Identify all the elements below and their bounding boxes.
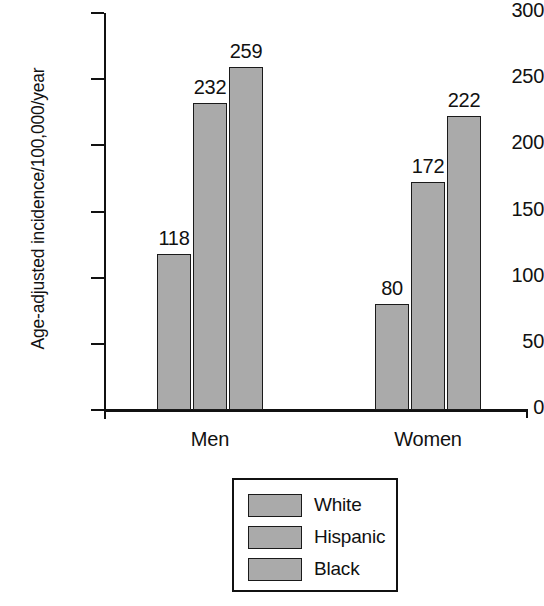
bar-value-label: 259	[218, 40, 274, 63]
y-axis-tick-label: 250	[458, 65, 544, 88]
legend-label: White	[314, 494, 362, 516]
y-axis-tick	[91, 12, 104, 14]
bar-men-hispanic	[193, 103, 227, 410]
legend-swatch-hispanic	[248, 526, 302, 549]
bar-men-black	[229, 67, 263, 410]
bar-women-black	[447, 116, 481, 410]
y-axis-tick	[91, 211, 104, 213]
legend-item-hispanic[interactable]: Hispanic	[248, 524, 385, 550]
bar-women-white	[375, 304, 409, 410]
legend-item-black[interactable]: Black	[248, 556, 359, 582]
bar-men-white	[157, 254, 191, 410]
legend-label: Hispanic	[314, 526, 385, 548]
legend-swatch-white	[248, 494, 302, 517]
y-axis-tick	[91, 144, 104, 146]
legend-swatch-black	[248, 558, 302, 581]
y-axis-line	[104, 13, 106, 411]
y-axis-base-tick	[104, 409, 106, 419]
legend: WhiteHispanicBlack	[232, 478, 398, 592]
legend-item-white[interactable]: White	[248, 492, 362, 518]
legend-label: Black	[314, 558, 359, 580]
y-axis-tick	[91, 409, 104, 411]
bar-value-label: 222	[436, 89, 492, 112]
x-axis-label-women: Women	[368, 428, 488, 451]
bar-chart: Age-adjusted incidence/100,000/year 3002…	[0, 0, 544, 606]
y-axis-tick	[91, 78, 104, 80]
y-axis-tick	[91, 277, 104, 279]
y-axis-tick	[91, 343, 104, 345]
y-axis-title: Age-adjusted incidence/100,000/year	[28, 0, 49, 419]
bar-women-hispanic	[411, 182, 445, 410]
x-axis-label-men: Men	[150, 428, 270, 451]
y-axis-tick-label: 300	[458, 0, 544, 22]
